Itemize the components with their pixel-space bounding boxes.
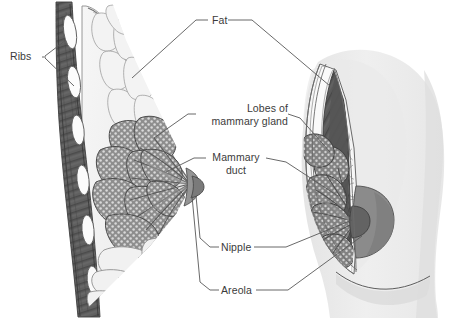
- label-mammary-duct: Mammary duct: [206, 151, 266, 176]
- right-anterior-view: [302, 50, 445, 318]
- label-lobes-line-2: mammary gland: [186, 115, 288, 128]
- fat-lobule: [132, 260, 170, 286]
- breast-anatomy-figure: Ribs Fat Lobes of mammary gland Mammary …: [0, 0, 459, 319]
- label-lobes-line-1: Lobes of: [186, 102, 288, 115]
- label-areola: Areola: [221, 284, 252, 297]
- label-duct-line-1: Mammary: [206, 151, 266, 164]
- fat-lobule: [120, 285, 156, 308]
- label-ribs: Ribs: [10, 50, 31, 63]
- leader-fat-left: [132, 20, 208, 78]
- label-lobes-of-mammary-gland: Lobes of mammary gland: [186, 102, 288, 127]
- label-fat: Fat: [212, 14, 227, 27]
- label-duct-line-2: duct: [206, 164, 266, 177]
- left-sagittal-view: [56, 2, 204, 317]
- label-nipple: Nipple: [221, 241, 251, 254]
- leader-nipple-left: [196, 196, 219, 247]
